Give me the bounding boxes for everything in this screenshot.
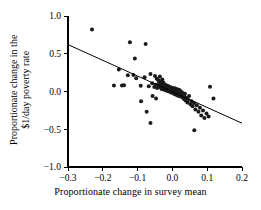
data-point	[187, 94, 191, 98]
x-tick-label: −0.2	[94, 173, 111, 183]
x-tick-label: 0.0	[166, 173, 178, 183]
y-tick-label: 0.5	[49, 49, 61, 59]
y-tick-label: −0.5	[44, 125, 61, 135]
y-axis-title-line1: Proportionate change in the	[8, 35, 20, 145]
x-axis-ticks: −0.3−0.2−0.10.00.10.2	[59, 167, 248, 183]
regression-line	[68, 45, 242, 124]
data-point	[192, 128, 196, 132]
x-tick-label: 0.1	[201, 173, 213, 183]
data-point	[139, 84, 143, 88]
data-point	[112, 84, 116, 88]
data-point	[202, 116, 206, 120]
data-point	[133, 56, 137, 60]
data-point	[151, 94, 155, 98]
data-point	[199, 114, 203, 118]
data-point	[144, 42, 148, 46]
y-tick-label: 0.0	[49, 87, 61, 97]
data-point	[201, 109, 205, 113]
x-tick-label: 0.2	[236, 173, 248, 183]
x-tick-label: −0.1	[129, 173, 146, 183]
data-point	[197, 110, 201, 114]
axes-layer	[68, 16, 242, 167]
y-tick-label: −1.0	[44, 162, 61, 172]
data-point	[147, 84, 151, 88]
data-point	[148, 72, 152, 76]
data-point	[207, 114, 211, 118]
y-axis-ticks: −1.0−0.50.00.51.0	[44, 11, 68, 172]
regression-line-layer	[68, 45, 242, 124]
scatter-plot-figure: −0.3−0.2−0.10.00.10.2 −1.0−0.50.00.51.0 …	[0, 0, 261, 210]
data-point	[154, 96, 158, 100]
y-tick-label: 1.0	[49, 11, 61, 21]
data-point	[122, 83, 126, 87]
data-point	[139, 99, 143, 103]
data-point	[208, 85, 212, 89]
data-point	[183, 92, 187, 96]
data-point	[126, 73, 130, 77]
data-point	[148, 121, 152, 125]
y-axis-title: Proportionate change in the $1/day pover…	[0, 0, 40, 180]
data-point	[134, 76, 138, 80]
data-point	[128, 40, 132, 44]
data-points-layer	[90, 28, 215, 133]
data-point	[145, 110, 149, 114]
x-tick-label: −0.3	[59, 173, 76, 183]
y-axis-title-line2: $1/day poverty rate	[20, 35, 32, 145]
data-point	[211, 96, 215, 100]
data-point	[198, 106, 202, 110]
data-point	[90, 28, 94, 32]
x-axis-title: Proportionate change in survey mean	[0, 186, 261, 197]
